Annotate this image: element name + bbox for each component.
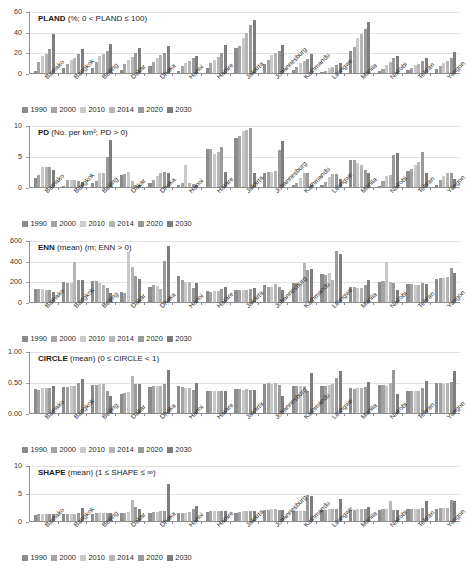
bar <box>245 130 248 187</box>
bar <box>37 514 40 521</box>
bar <box>439 66 442 73</box>
bar <box>152 180 155 187</box>
bar <box>270 287 273 303</box>
legend-item[interactable]: 1990 <box>22 106 47 113</box>
legend-item[interactable]: 2010 <box>80 106 105 113</box>
legend-label: 2020 <box>146 446 162 453</box>
y-tick-label: 40 <box>14 29 22 36</box>
panel-title-units: (mean) (m; ENN > 0) <box>55 243 132 252</box>
bar <box>95 181 98 187</box>
legend-item[interactable]: 2010 <box>80 446 105 453</box>
legend-label: 2030 <box>175 446 191 453</box>
legend-swatch-icon <box>138 107 144 113</box>
legend-item[interactable]: 2014 <box>109 220 134 227</box>
legend-item[interactable]: 2000 <box>51 220 76 227</box>
legend-item[interactable]: 2014 <box>109 335 134 342</box>
bar <box>95 62 98 73</box>
y-axis-circle: 0.000.501.00 <box>0 352 26 414</box>
bar <box>356 388 359 413</box>
bar <box>249 25 252 73</box>
bar <box>442 176 445 187</box>
bar <box>378 385 381 413</box>
bar <box>446 277 449 302</box>
bar <box>156 58 159 74</box>
y-tick-label: 10 <box>14 122 22 129</box>
legend-item[interactable]: 2000 <box>51 554 76 561</box>
legend-item[interactable]: 2000 <box>51 106 76 113</box>
legend-label: 2030 <box>175 335 191 342</box>
bar <box>328 177 331 187</box>
legend-item[interactable]: 1990 <box>22 446 47 453</box>
legend-item[interactable]: 2014 <box>109 446 134 453</box>
bar <box>267 172 270 187</box>
legend-item[interactable]: 2030 <box>167 335 192 342</box>
legend-item[interactable]: 2014 <box>109 106 134 113</box>
bar <box>267 60 270 73</box>
bar <box>356 509 359 521</box>
legend-item[interactable]: 2000 <box>51 446 76 453</box>
legend-item[interactable]: 1990 <box>22 554 47 561</box>
bar <box>120 70 123 73</box>
legend-item[interactable]: 2010 <box>80 554 105 561</box>
legend-item[interactable]: 2030 <box>167 106 192 113</box>
legend-label: 2030 <box>175 554 191 561</box>
bar <box>156 176 159 187</box>
legend-item[interactable]: 2014 <box>109 554 134 561</box>
legend-item[interactable]: 2010 <box>80 335 105 342</box>
bar <box>238 136 241 187</box>
bar <box>270 172 273 187</box>
bar <box>242 390 245 413</box>
chart-panel-enn: 0200400600ENN (mean) (m; ENN > 0)BamakoB… <box>0 241 464 344</box>
panel-title-metric: PLAND <box>38 14 66 23</box>
legend-item[interactable]: 2020 <box>138 446 163 453</box>
legend-swatch-icon <box>109 447 115 453</box>
bar <box>98 513 101 521</box>
legend-item[interactable]: 2030 <box>167 220 192 227</box>
legend-item[interactable]: 2030 <box>167 446 192 453</box>
bar <box>184 388 187 413</box>
bar <box>213 60 216 73</box>
bar <box>410 68 413 73</box>
legend-swatch-icon <box>138 336 144 342</box>
bar <box>263 384 266 413</box>
x-axis-labels-pland: BamakoBangkokBeijingDakarDhakaHanoiHarar… <box>29 74 460 102</box>
bar <box>381 69 384 73</box>
bar <box>274 383 277 413</box>
legend-item[interactable]: 2030 <box>167 554 192 561</box>
legend-item[interactable]: 1990 <box>22 335 47 342</box>
legend-item[interactable]: 1990 <box>22 220 47 227</box>
panel-title-shape: SHAPE (mean) (1 ≤ SHAPE ≤ ∞) <box>38 469 156 477</box>
bar <box>439 278 442 302</box>
bar <box>206 68 209 73</box>
bar <box>98 173 101 187</box>
legend-item[interactable]: 2020 <box>138 335 163 342</box>
bar <box>356 38 359 73</box>
legend-label: 2014 <box>117 106 133 113</box>
bar <box>238 290 241 302</box>
bar <box>66 64 69 73</box>
legend-swatch-icon <box>167 447 173 453</box>
legend-item[interactable]: 2000 <box>51 335 76 342</box>
bar <box>156 512 159 521</box>
bar <box>102 384 105 413</box>
bar <box>206 291 209 302</box>
legend-item[interactable]: 2020 <box>138 554 163 561</box>
bar <box>213 154 216 187</box>
panel-title-units: (mean) (0 ≤ CIRCLE < 1) <box>68 354 159 363</box>
panel-title-units: (No. per km²; PD > 0) <box>49 128 127 137</box>
bar <box>123 293 126 302</box>
legend-item[interactable]: 2020 <box>138 106 163 113</box>
legend-item[interactable]: 2010 <box>80 220 105 227</box>
legend-label: 2014 <box>117 554 133 561</box>
bar <box>381 509 384 521</box>
bar <box>148 183 151 187</box>
bar <box>70 386 73 413</box>
bar <box>392 370 395 413</box>
bar <box>131 376 134 413</box>
bar <box>184 282 187 302</box>
legend-item[interactable]: 2020 <box>138 220 163 227</box>
y-axis-shape: 0510 <box>0 466 26 522</box>
legend-label: 1990 <box>31 554 47 561</box>
bar <box>414 509 417 521</box>
bar <box>184 63 187 73</box>
